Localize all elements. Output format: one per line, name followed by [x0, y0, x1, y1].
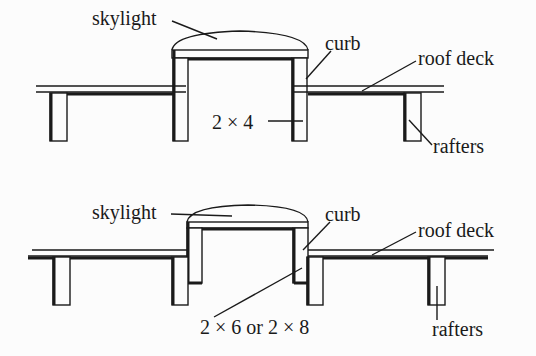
top-label-roof-deck: roof deck [418, 47, 494, 69]
bottom-label-curb: curb [325, 203, 361, 225]
top-left-rafter [50, 93, 67, 141]
bottom-label-rafters: rafters [432, 318, 483, 340]
bottom-figure: skylight curb roof deck 2 × 6 or 2 × 8 r… [28, 201, 494, 340]
bottom-leader-framing [214, 268, 302, 317]
bottom-left-rafter [53, 257, 70, 305]
bottom-skylight-dome [187, 205, 308, 222]
bottom-label-framing: 2 × 6 or 2 × 8 [200, 316, 309, 338]
top-label-skylight: skylight [92, 7, 157, 30]
bottom-label-skylight: skylight [92, 201, 157, 224]
top-right-rafter [404, 93, 421, 141]
bottom-label-roof-deck: roof deck [418, 219, 494, 241]
bottom-leader-roof-deck [372, 232, 416, 255]
bottom-skylight-flange [187, 222, 308, 228]
top-skylight-flange [172, 50, 308, 58]
top-label-framing: 2 × 4 [212, 111, 253, 133]
skylight-curb-diagram: skylight curb roof deck 2 × 4 rafters [0, 0, 536, 356]
top-leader-curb [306, 51, 331, 79]
top-label-rafters: rafters [433, 135, 484, 157]
top-figure: skylight curb roof deck 2 × 4 rafters [36, 7, 494, 157]
bottom-leader-skylight [171, 214, 232, 216]
top-skylight-dome [172, 31, 308, 50]
